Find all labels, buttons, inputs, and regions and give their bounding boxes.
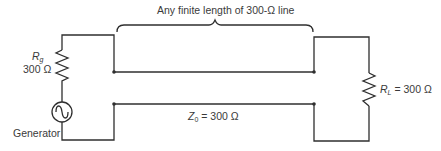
junction-dot [112,70,116,74]
generator-resistor-icon [56,50,68,102]
rg-symbol-label: Rg [32,51,44,63]
z0-label: Z0 = 300 Ω [188,111,239,123]
z0-subscript: 0 [194,116,198,123]
circuit-diagram [0,0,441,151]
rl-label: RL = 300 Ω [380,84,432,96]
rg-subscript: g [40,56,44,63]
rg-value-label: 300 Ω [23,64,51,75]
generator-label: Generator [13,128,60,139]
load-bottom-wire [314,104,369,141]
line-length-label: Any finite length of 300-Ω line [157,5,294,16]
generator-top-wire [62,35,114,72]
length-brace [117,20,313,32]
rl-subscript: L [388,89,392,96]
generator-bottom-wire [62,104,114,140]
z0-value: = 300 Ω [201,110,238,122]
junction-dot [112,102,116,106]
junction-dot [312,102,316,106]
rl-value: = 300 Ω [394,83,431,95]
rg-symbol: R [32,50,40,62]
load-top-wire [314,37,369,73]
load-resistor-icon [363,73,375,106]
junction-dot [312,70,316,74]
rl-symbol: R [380,83,388,95]
